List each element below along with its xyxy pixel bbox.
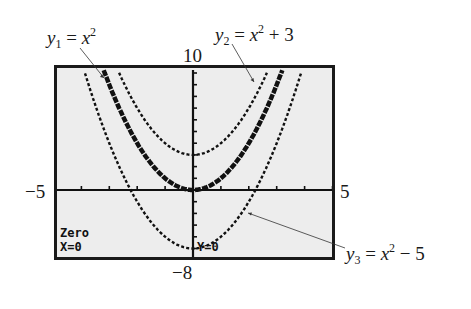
calculator-screen — [56, 67, 334, 259]
screen-text-x: X=0 — [60, 240, 82, 254]
screen-text-y: Y=0 — [197, 240, 219, 254]
calculator-graph: Zero X=0 Y=0 — [0, 0, 471, 309]
screen-text-zero: Zero — [60, 226, 89, 240]
